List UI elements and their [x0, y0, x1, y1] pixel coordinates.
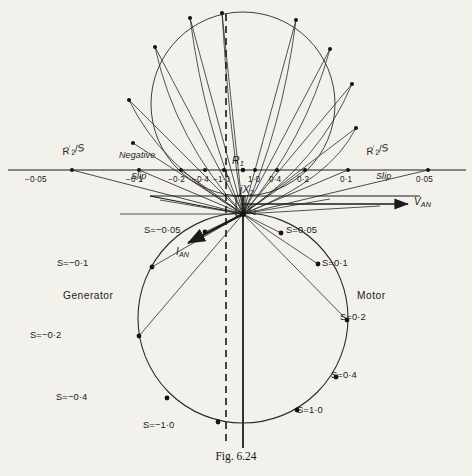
generator-region-label: Generator	[63, 291, 113, 301]
positive-slip-label: Slip	[376, 172, 391, 181]
slip-label: S=−0·1	[57, 258, 88, 267]
slip-label: S=−0·2	[30, 330, 61, 339]
motor-region-label: Motor	[357, 291, 386, 301]
axis-tick-label: −0·1	[126, 176, 143, 184]
upper-circle-points	[127, 11, 358, 145]
figure-caption: Fig. 6.24	[0, 450, 472, 462]
slip-label: S=−0·4	[56, 392, 87, 401]
slip-label: S=0·4	[331, 370, 357, 379]
axis-tick-label: −0·05	[25, 176, 47, 184]
ian-vector	[188, 214, 243, 243]
slip-label: S=−0·05	[144, 225, 181, 234]
slip-label: S=0·1	[322, 258, 348, 267]
van-label: VAN	[414, 197, 431, 208]
r1-label: R1	[232, 155, 244, 167]
right-impedance-ratio-label: R'2/S	[366, 144, 389, 156]
figure-root: R'2/S R'2/S Negative Slip Slip −0·05 −0·…	[0, 0, 472, 476]
slip-label: S=0·2	[340, 312, 366, 321]
circle-diagram-canvas	[0, 0, 472, 476]
axis-tick-label: 0·2	[297, 176, 309, 184]
slip-label: S=0·05	[286, 225, 317, 234]
axis-tick-label: 0·05	[416, 176, 433, 184]
left-impedance-ratio-label: R'2/S	[62, 144, 85, 156]
jx1-label: jX1	[243, 204, 257, 216]
axis-tick-label: −1·0	[213, 176, 230, 184]
ian-label: IAN	[176, 247, 189, 258]
slip-label: S=−1·0	[143, 420, 174, 429]
axis-tick-label: −0·2	[168, 176, 185, 184]
negative-slip-label-line1: Negative	[119, 151, 155, 160]
slip-label: S=1·0	[297, 405, 323, 414]
axis-tick-label: 0·1	[340, 176, 352, 184]
axis-tick-label: −0·4	[192, 176, 209, 184]
jx2-label: jX2	[240, 184, 254, 196]
axis-tick-label: 0·4	[269, 176, 281, 184]
